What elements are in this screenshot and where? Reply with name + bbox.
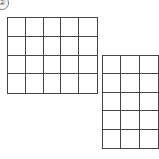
grid-cell bbox=[8, 56, 26, 75]
grid-cell bbox=[61, 18, 79, 37]
grid-cell bbox=[103, 93, 121, 111]
grid-cell bbox=[121, 93, 139, 111]
grid-cell bbox=[103, 74, 121, 92]
grid-cell bbox=[79, 74, 97, 93]
grid-cell bbox=[61, 74, 79, 93]
grid-cell bbox=[121, 111, 139, 129]
grid-cell bbox=[26, 18, 44, 37]
grid-cell bbox=[103, 130, 121, 148]
right-grid bbox=[102, 55, 159, 149]
grid-cell bbox=[61, 56, 79, 75]
grid-cell bbox=[44, 37, 62, 56]
grid-cell bbox=[140, 111, 158, 129]
grid-cell bbox=[103, 56, 121, 74]
grid-cell bbox=[140, 74, 158, 92]
grid-cell bbox=[121, 74, 139, 92]
grid-cell bbox=[121, 56, 139, 74]
grid-cell bbox=[8, 18, 26, 37]
grid-cell bbox=[26, 56, 44, 75]
grid-cell bbox=[26, 37, 44, 56]
grid-cell bbox=[140, 56, 158, 74]
grid-cell bbox=[79, 18, 97, 37]
grid-cell bbox=[44, 18, 62, 37]
figure-label: ② bbox=[0, 0, 9, 10]
grid-cell bbox=[61, 37, 79, 56]
grid-cell bbox=[26, 74, 44, 93]
grid-cell bbox=[103, 111, 121, 129]
left-grid bbox=[7, 17, 98, 94]
grid-cell bbox=[44, 74, 62, 93]
grid-cell bbox=[8, 37, 26, 56]
grid-cell bbox=[44, 56, 62, 75]
grid-cell bbox=[140, 93, 158, 111]
grid-cell bbox=[8, 74, 26, 93]
grid-cell bbox=[140, 130, 158, 148]
grid-cell bbox=[79, 56, 97, 75]
grid-cell bbox=[79, 37, 97, 56]
grid-cell bbox=[121, 130, 139, 148]
